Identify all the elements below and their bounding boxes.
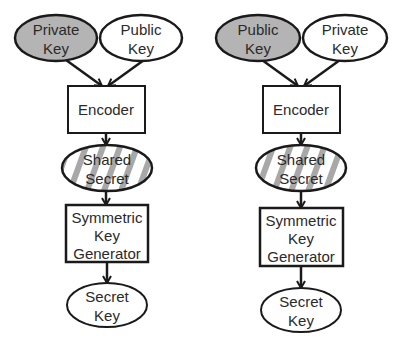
key-exchange-diagrams: Private Key Public Key Encoder Shared Se… bbox=[0, 0, 405, 353]
node-label: Encoder bbox=[273, 101, 329, 118]
node-label: Key bbox=[288, 230, 314, 247]
node-label: Private bbox=[33, 21, 80, 38]
left-diagram: Private Key Public Key Encoder Shared Se… bbox=[15, 15, 182, 327]
node-label: Generator bbox=[267, 248, 335, 265]
left-input-left-node: Private Key bbox=[15, 15, 97, 61]
node-label: Private bbox=[322, 21, 369, 38]
right-shared-secret-node: Shared Secret bbox=[256, 145, 346, 191]
node-label: Key bbox=[288, 312, 314, 329]
node-label: Public bbox=[121, 21, 162, 38]
right-secret-key-node: Secret Key bbox=[261, 288, 341, 332]
node-label: Secret bbox=[85, 170, 129, 187]
node-label: Secret bbox=[279, 170, 323, 187]
right-input-right-node: Private Key bbox=[303, 15, 387, 61]
left-shared-secret-node: Shared Secret bbox=[62, 145, 152, 191]
node-label: Encoder bbox=[78, 101, 134, 118]
node-label: Key bbox=[94, 227, 120, 244]
right-input-left-node: Public Key bbox=[216, 15, 300, 61]
left-encoder-box: Encoder bbox=[68, 86, 145, 133]
right-generator-box: Symmetric Key Generator bbox=[260, 208, 343, 266]
node-label: Key bbox=[94, 307, 120, 324]
arrow-private-to-encoder bbox=[66, 60, 102, 86]
left-generator-box: Symmetric Key Generator bbox=[66, 205, 148, 262]
node-label: Key bbox=[128, 40, 154, 57]
node-label: Shared bbox=[277, 151, 325, 168]
node-label: Secret bbox=[279, 293, 323, 310]
arrow-public-to-encoder bbox=[108, 60, 144, 86]
left-input-right-node: Public Key bbox=[100, 15, 182, 61]
arrow-private-to-encoder bbox=[304, 60, 340, 86]
node-label: Symmetric bbox=[266, 212, 337, 229]
right-diagram: Public Key Private Key Encoder Shared Se… bbox=[216, 15, 387, 332]
node-label: Generator bbox=[73, 245, 141, 262]
node-label: Key bbox=[245, 40, 271, 57]
node-label: Secret bbox=[85, 288, 129, 305]
node-label: Shared bbox=[83, 151, 131, 168]
node-label: Symmetric bbox=[72, 209, 143, 226]
node-label: Key bbox=[43, 40, 69, 57]
node-label: Key bbox=[332, 40, 358, 57]
right-encoder-box: Encoder bbox=[263, 86, 340, 133]
arrow-public-to-encoder bbox=[262, 60, 298, 86]
node-label: Public bbox=[238, 21, 279, 38]
left-secret-key-node: Secret Key bbox=[67, 283, 147, 327]
